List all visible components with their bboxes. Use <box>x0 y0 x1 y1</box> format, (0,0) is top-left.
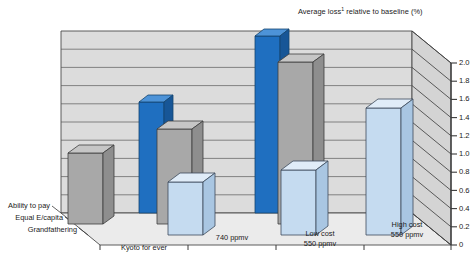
chart-root: Average loss1 relative to baseline (%) <box>0 0 474 260</box>
y-tick-label-1-6: 1.6 <box>459 94 470 103</box>
x-label-kyoto-for-ever-line-1: Kyoto for ever <box>104 243 184 253</box>
y-tick-label-0-2: 0.2 <box>459 222 470 231</box>
y-tick-label-1-2: 1.2 <box>459 131 470 140</box>
x-label-740-ppmv: 740 ppmv <box>192 233 272 243</box>
y-tick-label-1-8: 1.8 <box>459 76 470 85</box>
row-label-ability-to-pay: Ability to pay <box>0 201 50 210</box>
y-tick-label-2-0: 2.0 <box>459 58 470 67</box>
row-label-equal-e-capita: Equal E/capita <box>0 213 63 222</box>
x-label-kyoto-for-ever: Kyoto for ever <box>104 243 184 253</box>
bar-grandfathering-high-cost-550-ppmv <box>366 99 413 235</box>
x-label-740-ppmv-line-1: 740 ppmv <box>192 233 272 243</box>
y-axis-tick-marks <box>451 63 457 245</box>
y-tick-label-0-6: 0.6 <box>459 186 470 195</box>
y-tick-label-0-4: 0.4 <box>459 204 470 213</box>
x-label-low-cost-550-ppmv-line-2: 550 ppmv <box>280 239 360 249</box>
x-label-high-cost-550-ppmv-line-1: High cost <box>367 220 447 230</box>
x-label-high-cost-550-ppmv: High cost 550 ppmv <box>367 220 447 239</box>
bar-grandfathering-740-ppmv <box>168 173 215 235</box>
y-tick-label-0-8: 0.8 <box>459 167 470 176</box>
x-label-low-cost-550-ppmv-line-1: Low cost <box>280 229 360 239</box>
y-tick-label-1-4: 1.4 <box>459 113 470 122</box>
y-tick-label-0: 0 <box>459 240 463 249</box>
x-label-low-cost-550-ppmv: Low cost 550 ppmv <box>280 229 360 248</box>
leader-ability-to-pay <box>52 206 61 213</box>
row-label-grandfathering: Grandfathering <box>0 225 77 234</box>
y-tick-label-1-0: 1.0 <box>459 149 470 158</box>
x-label-high-cost-550-ppmv-line-2: 550 ppmv <box>367 230 447 240</box>
bar-equal-e-capita-kyoto-for-ever <box>68 145 114 224</box>
bar-grandfathering-low-cost-550-ppmv <box>281 161 328 235</box>
